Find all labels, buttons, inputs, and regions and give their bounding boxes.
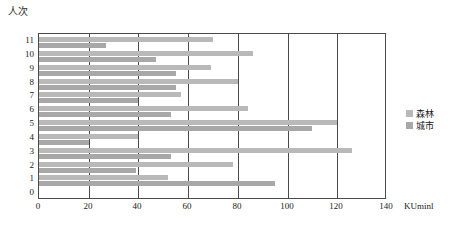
x-axis-tick-labels: 020406080100120140 xyxy=(38,201,386,215)
y-axis-tick: 1 xyxy=(12,174,34,183)
bar-group xyxy=(39,51,387,64)
bar-group xyxy=(39,120,387,133)
y-axis-tick-labels: 11109876543210 xyxy=(10,33,34,205)
x-axis-tick: 40 xyxy=(122,201,152,211)
bar-city xyxy=(39,126,312,131)
bar-group xyxy=(39,106,387,119)
x-axis-unit-label: KUminl xyxy=(404,201,434,211)
plot-area xyxy=(38,33,386,199)
bar-forest xyxy=(39,37,213,42)
bar-forest xyxy=(39,175,168,180)
x-axis-tick: 60 xyxy=(172,201,202,211)
bar-city xyxy=(39,43,106,48)
bar-forest xyxy=(39,162,233,167)
legend-item: 森林 xyxy=(406,108,456,119)
x-axis-tick: 0 xyxy=(23,201,53,211)
bar-forest xyxy=(39,51,253,56)
bar-forest xyxy=(39,106,248,111)
x-axis-tick: 80 xyxy=(222,201,252,211)
y-axis-tick: 3 xyxy=(12,147,34,156)
x-axis-tick: 20 xyxy=(73,201,103,211)
bar-forest xyxy=(39,148,352,153)
bar-city xyxy=(39,168,136,173)
legend: 森林城市 xyxy=(406,108,456,132)
bar-city xyxy=(39,181,275,186)
bar-forest xyxy=(39,65,211,70)
bar-city xyxy=(39,112,171,117)
bar-group xyxy=(39,37,387,50)
bar-group xyxy=(39,92,387,105)
bar-forest xyxy=(39,92,181,97)
x-axis-tick: 120 xyxy=(321,201,351,211)
bar-group xyxy=(39,134,387,147)
y-axis-tick: 7 xyxy=(12,91,34,100)
bar-group xyxy=(39,148,387,161)
y-axis-tick: 10 xyxy=(12,50,34,59)
bar-city xyxy=(39,140,89,145)
y-axis-unit-label: 人次 xyxy=(8,6,28,18)
bar-group xyxy=(39,162,387,175)
y-axis-tick: 4 xyxy=(12,133,34,142)
legend-item: 城市 xyxy=(406,120,456,131)
legend-label: 森林 xyxy=(416,109,434,119)
bar-city xyxy=(39,85,176,90)
bar-city xyxy=(39,154,171,159)
bar-city xyxy=(39,57,156,62)
bar-city xyxy=(39,98,138,103)
y-axis-tick: 9 xyxy=(12,64,34,73)
bar-group xyxy=(39,65,387,78)
x-axis-tick: 100 xyxy=(272,201,302,211)
bar-forest xyxy=(39,134,138,139)
bar-forest xyxy=(39,79,238,84)
bar-city xyxy=(39,71,176,76)
legend-swatch-icon xyxy=(406,110,413,117)
y-axis-tick: 0 xyxy=(12,188,34,197)
y-axis-tick: 5 xyxy=(12,119,34,128)
bar-chart: 人次 11109876543210 020406080100120140 KUm… xyxy=(0,0,459,233)
legend-swatch-icon xyxy=(406,122,413,129)
x-axis-tick: 140 xyxy=(371,201,401,211)
y-axis-tick: 2 xyxy=(12,161,34,170)
y-axis-tick: 6 xyxy=(12,105,34,114)
y-axis-tick: 8 xyxy=(12,78,34,87)
bar-forest xyxy=(39,120,337,125)
bar-group xyxy=(39,175,387,188)
y-axis-tick: 11 xyxy=(12,36,34,45)
legend-label: 城市 xyxy=(416,121,434,131)
bar-group xyxy=(39,79,387,92)
